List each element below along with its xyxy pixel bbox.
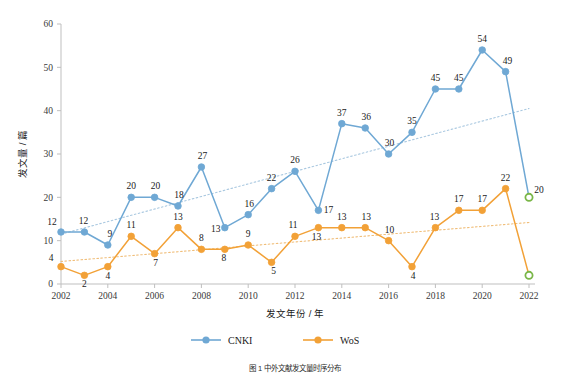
y-axis-tick-label: 50 (44, 63, 54, 73)
data-label-cnki-2019: 45 (454, 73, 464, 83)
data-point-cnki-2018[interactable] (432, 86, 439, 93)
data-label-wos-2012: 11 (288, 220, 297, 230)
legend-label-cnki: CNKI (228, 335, 252, 346)
figure-caption: 图 1 中外文献发文量时序分布 (249, 363, 342, 373)
caption-layer: 图 1 中外文献发文量时序分布 (249, 363, 342, 373)
y-axis-tick-label: 20 (44, 193, 54, 203)
data-label-cnki-2011: 22 (267, 173, 277, 183)
data-label-wos-2003: 2 (82, 279, 87, 289)
data-point-highlight-wos-2022[interactable] (525, 272, 532, 279)
data-point-cnki-2019[interactable] (456, 86, 463, 93)
data-label-cnki-2017: 35 (407, 116, 417, 126)
y-axis-tick-label: 60 (44, 19, 54, 29)
data-label-cnki-2021: 49 (503, 56, 513, 66)
data-label-wos-2010: 9 (246, 229, 251, 239)
data-point-wos-2010[interactable] (245, 242, 252, 249)
data-point-wos-2018[interactable] (432, 224, 439, 231)
data-point-cnki-2015[interactable] (362, 125, 369, 132)
data-label-cnki-2003: 12 (79, 216, 89, 226)
data-point-cnki-2010[interactable] (245, 211, 252, 218)
y-axis-tick-label: 40 (44, 106, 54, 116)
data-label-cnki-2005: 20 (126, 181, 136, 191)
data-point-wos-2014[interactable] (339, 224, 346, 231)
data-point-wos-2015[interactable] (362, 224, 369, 231)
data-label-wos-2016: 10 (385, 225, 395, 235)
data-label-wos-2007: 13 (173, 212, 183, 222)
x-axis-tick-label: 2004 (98, 291, 117, 301)
data-label-wos-2019: 17 (454, 194, 464, 204)
legend-item-cnki[interactable]: CNKI (191, 335, 252, 346)
data-point-wos-2017[interactable] (409, 263, 416, 270)
data-label-wos-2009: 8 (221, 253, 226, 263)
data-point-cnki-2012[interactable] (292, 168, 299, 175)
data-point-wos-2012[interactable] (292, 233, 299, 240)
data-label-cnki-2008: 27 (198, 151, 208, 161)
data-point-wos-2020[interactable] (479, 207, 486, 214)
data-label-wos-2018: 13 (430, 212, 440, 222)
data-point-wos-2003[interactable] (81, 272, 88, 279)
legend-marker-cnki (202, 336, 209, 343)
data-label-cnki-2020: 54 (477, 34, 487, 44)
data-label-cnki-2016: 30 (385, 138, 395, 148)
data-label-cnki-2010: 16 (244, 199, 254, 209)
data-point-wos-2019[interactable] (456, 207, 463, 214)
x-axis-tick-label: 2014 (332, 291, 351, 301)
data-point-cnki-2006[interactable] (151, 194, 158, 201)
data-point-wos-2016[interactable] (385, 237, 392, 244)
x-axis-tick-label: 2016 (379, 291, 398, 301)
data-point-wos-2006[interactable] (151, 250, 158, 257)
data-point-cnki-2021[interactable] (502, 68, 509, 75)
data-point-cnki-2005[interactable] (128, 194, 135, 201)
data-point-wos-2009[interactable] (222, 246, 229, 253)
data-label-cnki-2022: 20 (534, 185, 544, 195)
data-point-wos-2008[interactable] (198, 246, 205, 253)
x-axis-tick-label: 2012 (286, 291, 305, 301)
legend-item-wos[interactable]: WoS (303, 335, 359, 346)
data-point-wos-2002[interactable] (58, 263, 65, 270)
publication-trend-chart: 0102030405060200220042006200820102012201… (0, 0, 587, 373)
data-point-cnki-2004[interactable] (105, 242, 112, 249)
data-label-wos-2015: 13 (361, 212, 371, 222)
data-point-wos-2005[interactable] (128, 233, 135, 240)
data-point-cnki-2003[interactable] (81, 229, 88, 236)
data-label-wos-2005: 11 (127, 220, 136, 230)
data-label-cnki-2012: 26 (290, 155, 300, 165)
data-point-highlight-cnki-2022[interactable] (525, 194, 532, 201)
data-point-wos-2013[interactable] (315, 224, 322, 231)
data-point-cnki-2016[interactable] (385, 151, 392, 158)
data-point-cnki-2009[interactable] (222, 224, 229, 231)
data-label-cnki-2006: 20 (151, 181, 161, 191)
data-point-cnki-2020[interactable] (479, 47, 486, 54)
data-label-wos-2006: 7 (153, 258, 158, 268)
x-axis-tick-label: 2018 (426, 291, 445, 301)
data-point-wos-2004[interactable] (105, 263, 112, 270)
y-axis-tick-label: 0 (48, 279, 53, 289)
data-point-cnki-2008[interactable] (198, 164, 205, 171)
data-point-cnki-2011[interactable] (268, 185, 275, 192)
legend-marker-wos (314, 336, 321, 343)
x-axis-tick-label: 2002 (52, 291, 71, 301)
data-point-cnki-2014[interactable] (339, 120, 346, 127)
data-point-cnki-2007[interactable] (175, 203, 182, 210)
x-axis-tick-label: 2010 (239, 291, 258, 301)
data-label-wos-2013: 13 (312, 232, 322, 242)
data-point-wos-2011[interactable] (268, 259, 275, 266)
legend-label-wos: WoS (340, 335, 359, 346)
y-axis-title: 发文量 / 篇 (17, 130, 28, 178)
data-point-cnki-2002[interactable] (58, 229, 65, 236)
x-axis-title: 发文年份 / 年 (266, 308, 324, 319)
data-point-wos-2007[interactable] (175, 224, 182, 231)
data-label-cnki-2009: 13 (211, 224, 221, 234)
data-label-cnki-2015: 36 (361, 112, 371, 122)
x-axis-tick-label: 2020 (473, 291, 492, 301)
data-point-cnki-2017[interactable] (409, 129, 416, 136)
data-label-cnki-2002: 12 (47, 217, 57, 227)
data-label-wos-2004: 4 (105, 271, 110, 281)
data-label-cnki-2013: 17 (324, 205, 334, 215)
data-point-cnki-2013[interactable] (315, 207, 322, 214)
data-label-cnki-2014: 37 (337, 108, 347, 118)
data-label-cnki-2018: 45 (431, 73, 441, 83)
data-label-wos-2021: 22 (501, 173, 511, 183)
x-axis-tick-label: 2022 (520, 291, 539, 301)
data-point-wos-2021[interactable] (502, 185, 509, 192)
